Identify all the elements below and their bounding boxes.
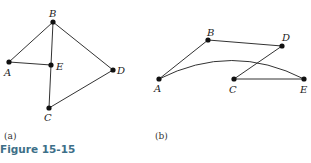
figure-canvas: A B C D E (a) A B C D E (b) xyxy=(0,0,311,163)
caption-a: (a) xyxy=(4,131,16,141)
node-d xyxy=(279,43,284,48)
node-b xyxy=(205,37,210,42)
node-label-d: D xyxy=(281,32,290,43)
node-label-a: A xyxy=(3,67,11,78)
node-label-a: A xyxy=(153,83,161,94)
node-a xyxy=(6,59,11,64)
node-label-b: B xyxy=(48,8,56,19)
edge-a-b xyxy=(159,40,208,79)
node-a xyxy=(156,76,161,81)
node-label-e: E xyxy=(299,84,308,95)
edge-e-c xyxy=(49,65,51,108)
caption-b: (b) xyxy=(155,131,168,141)
edge-a-e-curved xyxy=(159,61,304,80)
graph-b-nodes xyxy=(156,37,306,81)
node-e xyxy=(301,76,306,81)
node-label-b: B xyxy=(206,27,214,38)
node-d xyxy=(110,67,115,72)
node-label-d: D xyxy=(116,65,125,76)
edge-a-b xyxy=(9,22,53,62)
edge-a-e xyxy=(9,62,51,65)
node-label-e: E xyxy=(55,61,64,72)
node-e xyxy=(48,62,53,67)
edge-c-d xyxy=(49,70,113,108)
node-c xyxy=(231,76,236,81)
node-label-c: C xyxy=(44,112,52,123)
node-b xyxy=(50,19,55,24)
edge-b-d xyxy=(208,40,282,46)
node-label-c: C xyxy=(229,84,237,95)
figure-title: Figure 15-15 xyxy=(0,143,75,155)
edge-b-e xyxy=(51,22,53,65)
node-c xyxy=(46,105,51,110)
